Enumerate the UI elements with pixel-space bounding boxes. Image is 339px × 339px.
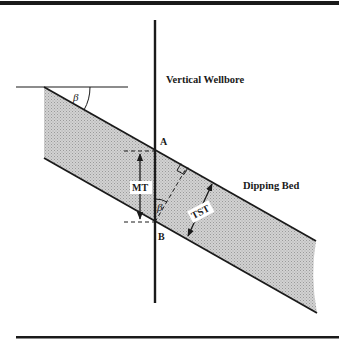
top-border — [0, 1, 339, 5]
point-a-label: A — [160, 136, 168, 147]
dip-angle-label-well: β — [156, 201, 163, 213]
dipping-bed-diagram: β Vertical Wellbore A B MT β TST Dipping… — [0, 0, 339, 339]
dip-angle-arc-top — [84, 87, 90, 110]
dip-angle-label-top: β — [72, 91, 79, 103]
wellbore-label: Vertical Wellbore — [166, 74, 245, 85]
point-b-label: B — [158, 231, 165, 242]
dipping-bed — [44, 87, 317, 313]
bottom-border — [16, 336, 339, 339]
dipping-bed-label: Dipping Bed — [243, 180, 299, 191]
mt-label: MT — [132, 182, 148, 193]
